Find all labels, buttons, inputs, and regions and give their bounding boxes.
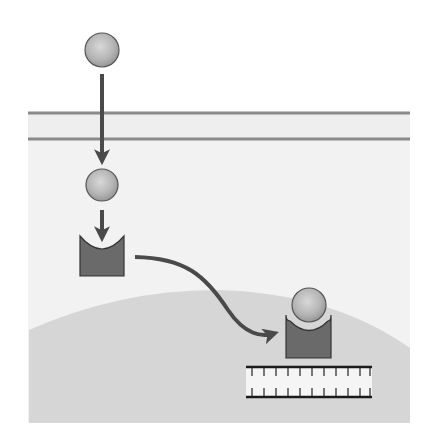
ligand-extracellular <box>85 33 119 67</box>
signal-pathway-diagram <box>0 0 426 435</box>
plasma-membrane <box>28 113 410 139</box>
diagram-canvas <box>0 0 426 435</box>
dna-ladder <box>246 367 372 397</box>
ligand-intracellular <box>86 169 118 201</box>
